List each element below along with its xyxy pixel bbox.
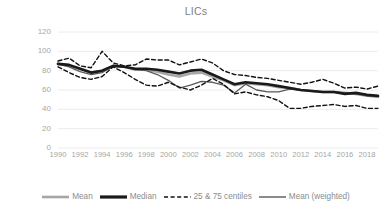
x-tick-label-2010: 2010 — [267, 150, 291, 159]
y-tick-label-120: 120 — [25, 28, 51, 36]
chart-plot-area — [0, 0, 392, 221]
x-tick-label-2018: 2018 — [355, 150, 379, 159]
y-tick-label-60: 60 — [25, 86, 51, 94]
y-tick-label-20: 20 — [25, 125, 51, 133]
series-line-centile-25 — [58, 67, 378, 109]
x-tick-label-1990: 1990 — [46, 150, 70, 159]
x-tick-label-1998: 1998 — [134, 150, 158, 159]
x-tick-label-2004: 2004 — [200, 150, 224, 159]
legend-item-median[interactable]: Median — [100, 192, 157, 201]
legend-label-centiles: 25 & 75 centiles — [194, 192, 252, 201]
legend-item-mean-weighted[interactable]: Mean (weighted) — [259, 192, 350, 201]
x-tick-label-2006: 2006 — [223, 150, 247, 159]
x-tick-label-1994: 1994 — [90, 150, 114, 159]
legend-item-mean[interactable]: Mean — [42, 192, 92, 201]
legend-item-centiles[interactable]: 25 & 75 centiles — [164, 192, 252, 201]
x-tick-label-1996: 1996 — [112, 150, 136, 159]
x-tick-label-1992: 1992 — [68, 150, 92, 159]
legend-label-median: Median — [130, 192, 157, 201]
legend-swatch-mean-weighted — [259, 194, 286, 200]
y-tick-label-100: 100 — [25, 47, 51, 55]
series-line-median — [58, 64, 378, 96]
legend-swatch-centiles — [164, 194, 191, 200]
x-tick-label-2008: 2008 — [245, 150, 269, 159]
legend-label-mean: Mean — [72, 192, 92, 201]
legend-swatch-median — [100, 194, 127, 200]
legend-swatch-mean — [42, 194, 69, 200]
x-tick-label-2012: 2012 — [289, 150, 313, 159]
y-tick-label-80: 80 — [25, 67, 51, 75]
x-tick-label-2002: 2002 — [178, 150, 202, 159]
y-tick-label-40: 40 — [25, 105, 51, 113]
chart-container: LICs 020406080100120 1990199219941996199… — [0, 0, 392, 221]
x-tick-label-2014: 2014 — [311, 150, 335, 159]
chart-legend: MeanMedian25 & 75 centilesMean (weighted… — [0, 192, 392, 201]
legend-label-mean-weighted: Mean (weighted) — [289, 192, 350, 201]
x-tick-label-2000: 2000 — [156, 150, 180, 159]
x-tick-label-2016: 2016 — [333, 150, 357, 159]
